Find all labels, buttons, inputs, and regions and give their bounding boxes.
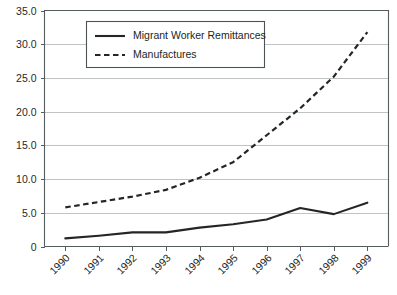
y-tick-label: 20.0 [16, 106, 37, 118]
y-tick-label: 25.0 [16, 72, 37, 84]
y-tick-labels: 05.010.015.020.025.030.035.0 [16, 5, 37, 253]
chart-canvas: 05.010.015.020.025.030.035.0 19901991199… [0, 0, 397, 295]
x-tick-label: 1992 [114, 251, 139, 276]
x-tick-marks [66, 247, 368, 251]
x-tick-label: 1995 [215, 251, 240, 276]
y-tick-label: 30.0 [16, 38, 37, 50]
gridlines [45, 45, 389, 214]
line-chart: 05.010.015.020.025.030.035.0 19901991199… [0, 0, 397, 295]
x-tick-label: 1997 [282, 251, 307, 276]
x-tick-label: 1996 [249, 251, 274, 276]
x-tick-label: 1990 [47, 251, 72, 276]
chart-legend: Migrant Worker Remittances Manufactures [87, 22, 266, 68]
x-tick-label: 1998 [316, 251, 341, 276]
y-tick-label: 15.0 [16, 139, 37, 151]
y-tick-label: 10.0 [16, 173, 37, 185]
series-line-migrant-worker-remittances [65, 203, 367, 239]
legend-label-migrant-worker-remittances: Migrant Worker Remittances [133, 29, 266, 41]
x-tick-labels: 1990199119921993199419951996199719981999 [47, 251, 374, 276]
legend-label-manufactures: Manufactures [133, 48, 197, 60]
x-tick-label: 1999 [349, 251, 374, 276]
y-tick-label: 5.0 [22, 207, 37, 219]
y-tick-label: 35.0 [16, 5, 37, 17]
x-tick-label: 1994 [182, 251, 207, 276]
x-tick-label: 1991 [81, 251, 106, 276]
y-tick-label: 0 [31, 241, 37, 253]
x-tick-label: 1993 [148, 251, 173, 276]
y-tick-marks [41, 12, 45, 248]
